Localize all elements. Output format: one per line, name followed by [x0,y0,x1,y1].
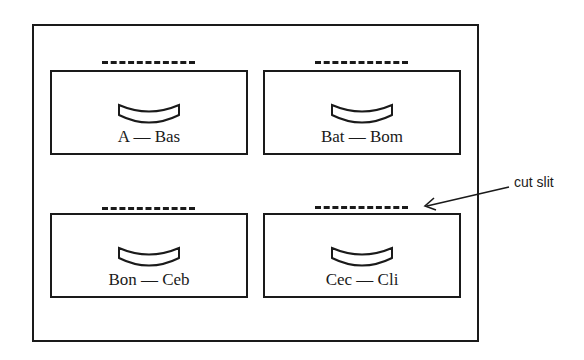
callout-arrow-icon [0,0,584,360]
callout-label: cut slit [514,174,554,190]
